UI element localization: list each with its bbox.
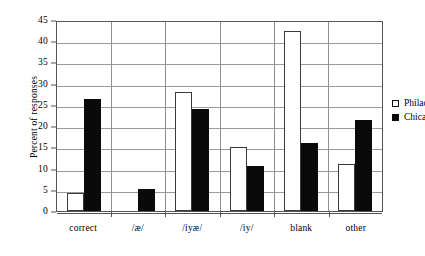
y-axis-tick-label: 45 — [38, 16, 48, 26]
legend-label: Philadelphia — [404, 96, 425, 110]
x-axis-tick-label: blank — [274, 212, 329, 242]
y-axis-tick-label: 15 — [38, 144, 48, 154]
group-separator — [111, 22, 112, 211]
legend-swatch-icon — [392, 114, 399, 121]
bar-series-container — [57, 22, 382, 211]
x-axis-tick-text: blank — [290, 223, 312, 233]
bar-group — [111, 22, 165, 211]
legend: PhiladelphiaChicago — [392, 96, 425, 124]
y-axis-tick-label: 20 — [38, 122, 48, 132]
x-axis-tick-mark — [329, 212, 330, 217]
legend-label: Chicago — [404, 110, 425, 124]
bar-chicago-blank — [301, 143, 318, 211]
plot-area — [56, 21, 383, 212]
y-axis-tick-label: 25 — [38, 101, 48, 111]
x-axis-tick-text: /iyæ/ — [182, 223, 202, 233]
bar-chicago-iyæ — [192, 109, 209, 211]
bar-chicago-æ — [138, 189, 155, 211]
bar-group — [328, 22, 382, 211]
x-axis-tick-mark — [274, 212, 275, 217]
y-axis-tick-label: 35 — [38, 59, 48, 69]
x-axis-tick-mark — [220, 212, 221, 217]
x-axis-tick-label: /iyæ/ — [165, 212, 220, 242]
bar-philadelphia-correct — [67, 193, 84, 211]
y-axis-tick-label: 40 — [38, 37, 48, 47]
x-axis-tick-mark — [111, 212, 112, 217]
x-axis-tick-text: /æ/ — [132, 223, 144, 233]
legend-item-chicago: Chicago — [392, 110, 425, 124]
bar-chicago-iy — [247, 166, 264, 211]
chart-figure: Percent of responses 051015202530354045 … — [0, 0, 425, 256]
bar-group — [274, 22, 328, 211]
group-separator — [274, 22, 275, 211]
x-axis-tick-label: other — [329, 212, 384, 242]
x-axis-tick-text: /iy/ — [240, 223, 253, 233]
x-axis-tick-text: other — [345, 223, 366, 233]
legend-item-philadelphia: Philadelphia — [392, 96, 425, 110]
y-axis-ticks: 051015202530354045 — [0, 21, 56, 212]
x-axis-tick-text: correct — [69, 223, 97, 233]
y-axis-tick-label: 30 — [38, 80, 48, 90]
bar-group — [57, 22, 111, 211]
group-separator — [328, 22, 329, 211]
y-axis-tick-label: 0 — [43, 207, 48, 217]
y-axis-tick-label: 10 — [38, 165, 48, 175]
bar-chicago-other — [355, 120, 372, 211]
x-axis-tick-label: /iy/ — [220, 212, 275, 242]
group-separator — [165, 22, 166, 211]
bar-chicago-correct — [84, 99, 101, 211]
x-axis-tick-mark — [165, 212, 166, 217]
y-axis-tick-label: 5 — [43, 186, 48, 196]
bar-philadelphia-blank — [284, 31, 301, 211]
x-axis-labels: correct/æ//iyæ//iy/blankother — [56, 212, 383, 242]
group-separator — [220, 22, 221, 211]
bar-group — [220, 22, 274, 211]
bar-group — [165, 22, 219, 211]
legend-swatch-icon — [392, 100, 399, 107]
bar-philadelphia-iy — [230, 147, 247, 211]
x-axis-tick-label: /æ/ — [111, 212, 166, 242]
x-axis-tick-label: correct — [56, 212, 111, 242]
bar-philadelphia-iyæ — [175, 92, 192, 211]
bar-philadelphia-other — [338, 164, 355, 211]
